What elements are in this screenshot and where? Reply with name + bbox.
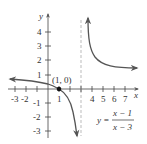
curve-left-branch: [10, 79, 77, 136]
curve-right-branch: [88, 18, 137, 68]
x-axis-label: x: [133, 90, 138, 100]
svg-text:2: 2: [37, 55, 42, 65]
svg-text:-2: -2: [21, 94, 29, 104]
svg-text:x − 1: x − 1: [112, 108, 132, 118]
svg-text:-2: -2: [33, 112, 41, 122]
svg-text:7: 7: [123, 94, 128, 104]
svg-text:1: 1: [57, 94, 62, 104]
svg-text:6: 6: [112, 94, 117, 104]
x-intercept-point: [57, 87, 62, 92]
y-tick-labels: 4 3 2 1 -1 -2 -3 y: [33, 11, 43, 136]
svg-text:5: 5: [101, 94, 106, 104]
svg-text:x − 3: x − 3: [112, 122, 133, 132]
svg-text:1: 1: [37, 70, 42, 80]
function-graph: -3 -2 1 4 5 6 7 x 4 3 2 1 -1 -2 -3 y (1,…: [0, 0, 147, 144]
equation-label: y = x − 1 x − 3: [96, 108, 134, 132]
svg-text:-3: -3: [11, 94, 19, 104]
y-axis-label: y: [38, 11, 43, 21]
svg-text:-1: -1: [33, 98, 41, 108]
point-label: (1, 0): [52, 75, 72, 85]
svg-text:4: 4: [90, 94, 95, 104]
svg-text:3: 3: [37, 41, 42, 51]
svg-text:y =: y =: [96, 115, 109, 125]
svg-text:4: 4: [37, 27, 42, 37]
x-tick-labels: -3 -2 1 4 5 6 7 x: [11, 90, 138, 104]
svg-text:-3: -3: [33, 126, 41, 136]
